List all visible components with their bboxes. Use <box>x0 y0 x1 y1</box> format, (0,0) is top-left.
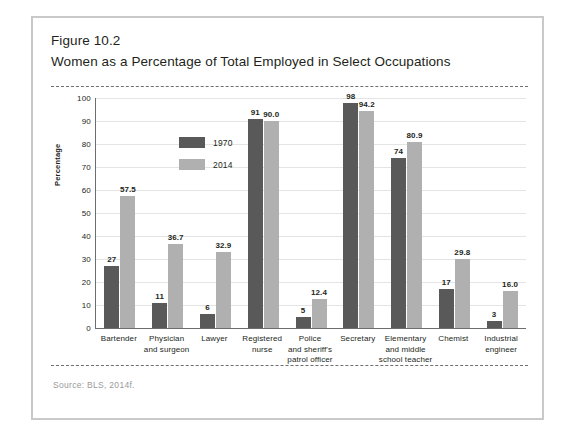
figure-title: Women as a Percentage of Total Employed … <box>51 52 521 71</box>
legend-label-1970: 1970 <box>213 138 233 148</box>
bar-group: 9894.2 <box>343 98 374 328</box>
bar-group: 9190.0 <box>248 98 279 328</box>
y-axis-tick-label: 30 <box>82 255 91 264</box>
bar-value-label: 90.0 <box>263 110 279 119</box>
y-axis-title: Percentage <box>53 144 62 186</box>
bar-1970[interactable] <box>487 321 502 328</box>
bar-2014[interactable] <box>168 244 183 328</box>
legend-item: 1970 <box>179 134 233 151</box>
bar-group: 632.9 <box>200 98 231 328</box>
bar-1970[interactable] <box>439 289 454 328</box>
bar-value-label: 98 <box>346 92 355 101</box>
bar-group: 512.4 <box>296 98 327 328</box>
bar-1970[interactable] <box>248 119 263 328</box>
bar-2014[interactable] <box>455 259 470 328</box>
y-axis-tick-label: 60 <box>82 186 91 195</box>
bar-group: 7480.9 <box>391 98 422 328</box>
bar-2014[interactable] <box>503 291 518 328</box>
bar-value-label: 74 <box>394 147 403 156</box>
x-axis-category-label: Industrialengineer <box>473 334 529 355</box>
y-axis-tick-label: 20 <box>82 278 91 287</box>
bar-value-label: 5 <box>301 306 306 315</box>
bar-2014[interactable] <box>264 121 279 328</box>
y-axis-ticks: 0102030405060708090100 <box>63 98 91 328</box>
bar-2014[interactable] <box>359 111 374 328</box>
bar-value-label: 32.9 <box>215 241 231 250</box>
bar-1970[interactable] <box>152 303 167 328</box>
bar-value-label: 36.7 <box>168 233 184 242</box>
bar-group: 1136.7 <box>152 98 183 328</box>
figure-frame: Figure 10.2 Women as a Percentage of Tot… <box>31 16 544 420</box>
divider-top <box>51 86 528 87</box>
bar-value-label: 16.0 <box>502 280 518 289</box>
y-axis-tick-label: 50 <box>82 209 91 218</box>
figure-number: Figure 10.2 <box>51 32 521 50</box>
bar-group: 2757.5 <box>104 98 135 328</box>
bar-value-label: 57.5 <box>120 185 136 194</box>
bar-1970[interactable] <box>343 103 358 328</box>
bar-1970[interactable] <box>104 266 119 328</box>
plot-area: 2757.51136.7632.99190.0512.49894.27480.9… <box>95 98 526 329</box>
bar-value-label: 91 <box>251 108 260 117</box>
bar-value-label: 12.4 <box>311 288 327 297</box>
bar-group: 1729.8 <box>439 98 470 328</box>
source-note: Source: BLS, 2014f. <box>53 380 135 390</box>
bar-value-label: 94.2 <box>359 100 375 109</box>
chart-legend: 1970 2014 <box>179 134 233 178</box>
y-axis-tick-label: 70 <box>82 163 91 172</box>
bar-1970[interactable] <box>296 317 311 329</box>
legend-swatch-1970 <box>179 137 205 148</box>
bar-value-label: 3 <box>492 310 497 319</box>
y-axis-tick-label: 0 <box>86 324 91 333</box>
bar-value-label: 6 <box>205 303 210 312</box>
bar-value-label: 80.9 <box>407 131 423 140</box>
bar-1970[interactable] <box>200 314 215 328</box>
legend-label-2014: 2014 <box>213 160 233 170</box>
bar-value-label: 17 <box>442 278 451 287</box>
legend-item: 2014 <box>179 156 233 173</box>
bar-2014[interactable] <box>216 252 231 328</box>
bar-value-label: 29.8 <box>454 248 470 257</box>
bar-value-label: 11 <box>155 292 164 301</box>
bars-layer: 2757.51136.7632.99190.0512.49894.27480.9… <box>96 98 526 328</box>
bar-value-label: 27 <box>107 255 116 264</box>
bar-group: 316.0 <box>487 98 518 328</box>
y-axis-tick-label: 100 <box>77 94 91 103</box>
bar-2014[interactable] <box>407 142 422 328</box>
y-axis-tick-label: 80 <box>82 140 91 149</box>
legend-swatch-2014 <box>179 159 205 170</box>
bar-2014[interactable] <box>120 196 135 328</box>
bar-2014[interactable] <box>312 299 327 328</box>
y-axis-tick-label: 40 <box>82 232 91 241</box>
y-axis-tick-label: 90 <box>82 117 91 126</box>
y-axis-tick-label: 10 <box>82 301 91 310</box>
chart-plot: Percentage 0102030405060708090100 2757.5… <box>51 98 528 360</box>
divider-bottom <box>51 365 528 366</box>
bar-1970[interactable] <box>391 158 406 328</box>
figure-heading: Figure 10.2 Women as a Percentage of Tot… <box>51 32 521 71</box>
